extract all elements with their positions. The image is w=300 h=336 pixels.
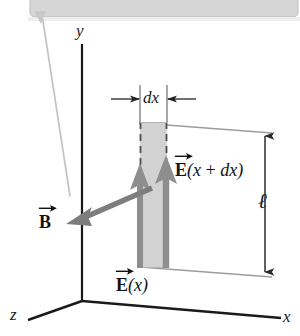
e-field-args-close: dx) (220, 160, 243, 180)
axis-label-x: x (283, 308, 291, 325)
b-field-letter-glyph: B (39, 212, 51, 232)
e-field-x-args: (x) (128, 275, 148, 295)
e-field-x-plus-dx-label: E (x + dx) (175, 161, 243, 179)
scan-leader-line (34, 11, 70, 196)
b-field-label: B (39, 213, 51, 231)
axis-x (82, 301, 281, 318)
axis-label-z: z (10, 306, 17, 323)
dx-label: dx (143, 89, 159, 106)
b-field-letter: B (39, 213, 51, 231)
physics-figure: y x z dx ℓ B E (x) (0, 0, 300, 336)
e-field-x-letter-glyph: E (116, 275, 128, 295)
e-field-args-open: (x (187, 160, 201, 180)
figure-canvas (0, 0, 300, 336)
length-label: ℓ (258, 191, 267, 212)
scan-artifact-band (28, 0, 300, 21)
e-field-x-plus-dx-letter-glyph: E (175, 160, 187, 180)
e-field-x-letter: E (116, 276, 128, 294)
slab-bottom-extension-line (140, 267, 272, 277)
e-field-args-plus: + (201, 160, 220, 180)
e-field-x-plus-dx-letter: E (175, 161, 187, 179)
e-field-x-label: E (x) (116, 276, 148, 294)
axis-label-y: y (76, 22, 84, 39)
axis-z (28, 301, 82, 320)
